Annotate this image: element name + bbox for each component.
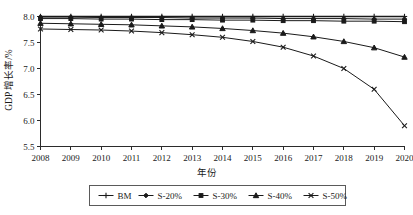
legend-label: S-20% bbox=[158, 191, 183, 201]
series-s-40 bbox=[38, 21, 407, 60]
data-point-triangle-marker bbox=[68, 21, 73, 26]
data-point-triangle-marker bbox=[311, 34, 316, 39]
data-point-square-marker bbox=[372, 19, 376, 23]
y-tick-label: 7.5 bbox=[23, 38, 35, 48]
data-point-triangle-marker bbox=[371, 45, 376, 50]
data-point-x-marker bbox=[341, 66, 346, 71]
series-s-50 bbox=[38, 27, 407, 129]
data-point-square-marker bbox=[403, 20, 407, 24]
data-point-x-marker bbox=[402, 123, 407, 128]
data-point-square-marker bbox=[99, 17, 103, 21]
y-tick-label: 6.0 bbox=[23, 116, 35, 126]
series-group bbox=[38, 14, 407, 128]
data-point-x-marker bbox=[372, 87, 377, 92]
x-tick-label: 2015 bbox=[244, 153, 263, 163]
data-point-triangle-marker bbox=[129, 22, 134, 27]
x-tick-label: 2020 bbox=[396, 153, 413, 163]
y-tick-label: 6.5 bbox=[23, 90, 35, 100]
chart-figure: 5.56.06.57.07.58.0 200820092010201120122… bbox=[0, 0, 413, 215]
data-point-square-marker bbox=[221, 18, 225, 22]
gdp-growth-line-chart: 5.56.06.57.07.58.0 200820092010201120122… bbox=[0, 0, 413, 215]
data-point-square-marker bbox=[199, 194, 203, 198]
x-axis: 2008200920102011201220132014201520162017… bbox=[32, 147, 413, 163]
y-axis: 5.56.06.57.07.58.0 bbox=[23, 12, 40, 152]
legend-label: S-40% bbox=[268, 191, 293, 201]
data-point-triangle-marker bbox=[402, 54, 407, 59]
legend-label: S-30% bbox=[213, 191, 238, 201]
data-point-square-marker bbox=[281, 19, 285, 23]
x-tick-label: 2018 bbox=[335, 153, 354, 163]
x-tick-label: 2013 bbox=[183, 153, 202, 163]
y-axis-title: GDP 增长率/% bbox=[3, 49, 14, 111]
x-tick-label: 2016 bbox=[274, 153, 293, 163]
data-point-square-marker bbox=[160, 18, 164, 22]
x-tick-label: 2010 bbox=[92, 153, 111, 163]
data-point-square-marker bbox=[342, 19, 346, 23]
y-tick-label: 7.0 bbox=[23, 64, 35, 74]
chart-legend: BMS-20%S-30%S-40%S-50% bbox=[90, 186, 348, 206]
data-point-triangle-marker bbox=[189, 24, 194, 29]
data-point-triangle-marker bbox=[98, 22, 103, 27]
x-tick-label: 2019 bbox=[365, 153, 384, 163]
data-point-triangle-marker bbox=[280, 30, 285, 35]
data-point-square-marker bbox=[190, 18, 194, 22]
x-tick-label: 2012 bbox=[153, 153, 171, 163]
data-point-triangle-marker bbox=[159, 23, 164, 28]
data-point-triangle-marker bbox=[341, 39, 346, 44]
data-point-triangle-marker bbox=[250, 28, 255, 33]
y-tick-label: 5.5 bbox=[23, 142, 35, 152]
x-axis-title: 年份 bbox=[197, 167, 217, 178]
data-point-triangle-marker bbox=[220, 26, 225, 31]
data-point-square-marker bbox=[69, 17, 73, 21]
x-tick-label: 2014 bbox=[214, 153, 233, 163]
data-point-square-marker bbox=[312, 19, 316, 23]
x-tick-label: 2011 bbox=[123, 153, 141, 163]
x-tick-label: 2008 bbox=[32, 153, 51, 163]
x-tick-label: 2017 bbox=[305, 153, 324, 163]
x-tick-label: 2009 bbox=[62, 153, 81, 163]
data-point-square-marker bbox=[130, 17, 134, 21]
legend-label: S-50% bbox=[323, 191, 348, 201]
data-point-square-marker bbox=[251, 18, 255, 22]
y-tick-label: 8.0 bbox=[23, 12, 35, 22]
legend-label: BM bbox=[118, 191, 132, 201]
data-point-triangle-marker bbox=[38, 21, 43, 26]
series-line bbox=[41, 29, 405, 126]
